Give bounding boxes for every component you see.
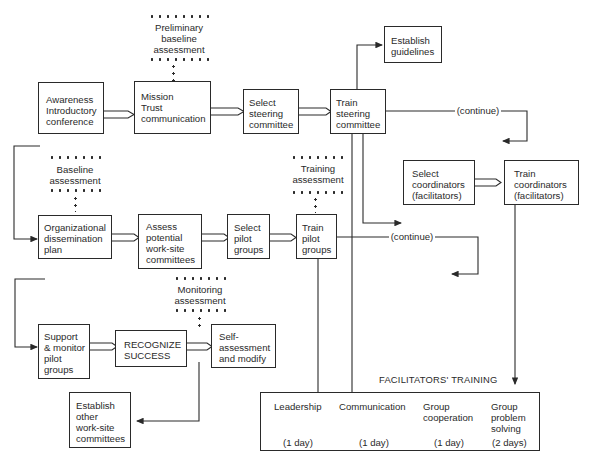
duration-leadership: (1 day)	[283, 437, 313, 448]
assessment-dots-top	[48, 156, 104, 159]
self-assessment-box[interactable]: Self- assessment and modify	[211, 324, 276, 368]
assessment-dots-top	[148, 15, 210, 18]
establish-other-committees-label: Establish other work-site committees	[76, 400, 130, 444]
train-steering-committee-label: Train steering committee	[336, 97, 385, 130]
assess-work-site-committees-label: Assess potential work-site committees	[146, 221, 201, 265]
continue-label-2: (continue)	[389, 231, 435, 242]
assessment-dots-bottom	[148, 58, 210, 61]
training-assessment-label: Training assessment	[283, 163, 353, 185]
duration-group-problem-solving: (2 days)	[492, 437, 527, 448]
recognize-success-box[interactable]: RECOGNIZE SUCCESS	[115, 330, 187, 367]
train-pilot-groups-box[interactable]: Train pilot groups	[296, 214, 337, 259]
awareness-box[interactable]: Awareness Introductory conference	[38, 82, 104, 134]
select-pilot-groups-box[interactable]: Select pilot groups	[227, 214, 270, 259]
continue-label-1: (continue)	[455, 105, 501, 116]
support-monitor-pilot-groups-box[interactable]: Support & monitor pilot groups	[38, 324, 90, 379]
duration-communication: (1 day)	[359, 437, 389, 448]
baseline-assessment-label: Baseline assessment	[40, 164, 110, 186]
select-steering-committee-label: Select steering committee	[249, 97, 298, 130]
assessment-dots-bottom	[48, 189, 104, 192]
assessment-dots-top	[173, 277, 227, 280]
establish-other-committees-box[interactable]: Establish other work-site committees	[69, 392, 131, 448]
train-pilot-groups-label: Train pilot groups	[302, 222, 336, 255]
organizational-dissemination-plan-label: Organizational dissemination plan	[44, 222, 111, 255]
module-group-problem-solving: Group problem solving	[491, 401, 526, 434]
establish-guidelines-box[interactable]: Establish guidelines	[384, 26, 442, 63]
train-coordinators-label: Train coordinators (facilitators)	[514, 168, 578, 201]
support-monitor-pilot-groups-label: Support & monitor pilot groups	[44, 331, 89, 375]
assessment-dots-top	[290, 156, 346, 159]
assessment-dots-bottom	[173, 309, 227, 312]
assessment-link-dots	[198, 315, 201, 331]
facilitators-training-title: FACILITATORS' TRAINING	[379, 374, 498, 385]
assessment-dots-bottom	[290, 191, 346, 194]
train-steering-committee-box[interactable]: Train steering committee	[330, 89, 386, 134]
assess-work-site-committees-box[interactable]: Assess potential work-site committees	[138, 214, 202, 269]
awareness-label: Awareness Introductory conference	[46, 94, 103, 127]
select-coordinators-label: Select coordinators (facilitators)	[412, 168, 474, 201]
mission-box[interactable]: Mission Trust communication	[134, 81, 211, 134]
preliminary-baseline-assessment-label: Preliminary baseline assessment	[140, 22, 218, 55]
monitoring-assessment-label: Monitoring assessment	[164, 284, 236, 306]
assessment-link-dots	[314, 196, 317, 213]
select-pilot-groups-label: Select pilot groups	[234, 222, 269, 255]
assessment-link-dots	[74, 195, 77, 212]
train-coordinators-box[interactable]: Train coordinators (facilitators)	[504, 160, 579, 205]
select-steering-committee-box[interactable]: Select steering committee	[243, 89, 299, 134]
mission-label: Mission Trust communication	[141, 91, 210, 124]
duration-group-cooperation: (1 day)	[434, 437, 464, 448]
recognize-success-label: RECOGNIZE SUCCESS	[124, 339, 186, 361]
module-leadership: Leadership	[274, 401, 321, 412]
module-communication: Communication	[339, 401, 406, 412]
assessment-link-dots	[172, 63, 175, 81]
select-coordinators-box[interactable]: Select coordinators (facilitators)	[403, 160, 475, 205]
module-group-cooperation: Group cooperation	[423, 401, 473, 423]
establish-guidelines-label: Establish guidelines	[391, 35, 441, 57]
self-assessment-label: Self- assessment and modify	[219, 331, 275, 364]
organizational-dissemination-plan-box[interactable]: Organizational dissemination plan	[38, 215, 112, 259]
